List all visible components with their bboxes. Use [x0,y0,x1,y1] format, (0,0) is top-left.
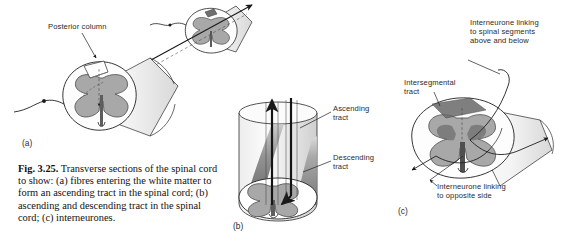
panel-tag-c: (c) [398,206,408,216]
label-ascending-tract: Ascending tract [333,104,369,122]
panel-tag-a: (a) [22,138,32,148]
figure-spinal-cord-sections: Posterior column Ascending tract Descend… [0,0,571,249]
label-descending-tract: Descending tract [333,153,374,171]
cord-segment-lower [14,58,178,136]
panel-tag-b: (b) [233,221,243,231]
panel-b-artwork [239,98,331,221]
label-interneurone-above-below: Interneurone linking to spinal segments … [470,18,539,46]
label-posterior-column: Posterior column [48,22,107,31]
figure-caption: Fig. 3.25. Transverse sections of the sp… [18,163,223,224]
label-interneurone-opposite-side: Interneurone linking to opposite side [437,182,506,200]
label-intersegmental-tract: Intersegmental tract [404,78,456,96]
figure-number: Fig. 3.25. [18,163,58,174]
